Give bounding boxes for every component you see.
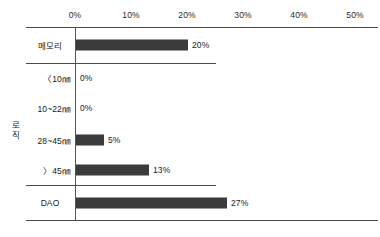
y-axis-line <box>75 27 76 220</box>
category-label-memory: 메모리 <box>30 39 70 51</box>
bar-28-45nm <box>76 135 104 146</box>
bar-dao <box>76 198 227 209</box>
x-axis-tick-30: 30% <box>234 10 251 20</box>
x-axis-tick-0: 0% <box>69 10 82 20</box>
category-label-under-10nm: 〈10㎚ <box>20 72 71 84</box>
category-label-10-22nm: 10~22㎚ <box>20 102 71 114</box>
value-label-dao: 27% <box>231 198 248 208</box>
x-axis-tick-50: 50% <box>346 10 363 20</box>
axis-bottom-rule <box>26 220 378 221</box>
value-label-28-45nm: 5% <box>108 135 121 145</box>
axis-top-rule <box>26 27 378 28</box>
value-label-10-22nm: 0% <box>80 103 93 113</box>
memory-row-rule <box>26 63 216 64</box>
value-label-memory: 20% <box>192 40 209 50</box>
category-label-dao: DAO <box>30 198 70 208</box>
bar-over-45nm <box>76 165 149 176</box>
x-axis-tick-20: 20% <box>178 10 195 20</box>
value-label-under-10nm: 0% <box>80 73 93 83</box>
value-label-over-45nm: 13% <box>153 165 170 175</box>
category-label-28-45nm: 28~45㎚ <box>20 134 71 146</box>
x-axis-tick-40: 40% <box>290 10 307 20</box>
bar-memory <box>76 40 188 51</box>
category-label-over-45nm: 〉45㎚ <box>20 164 71 176</box>
x-axis-tick-10: 10% <box>122 10 139 20</box>
dao-row-rule <box>26 185 216 186</box>
bar-chart: 0% 10% 20% 30% 40% 50% 로 직 메모리 20% 〈10㎚ … <box>0 0 380 237</box>
